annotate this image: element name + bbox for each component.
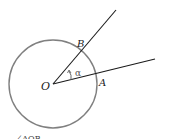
ray-ob <box>53 10 116 84</box>
label-o: O <box>41 80 50 93</box>
diagram-svg: O A B α ...∠AOB <box>0 0 169 139</box>
unit-circle-angle-diagram: O A B α ...∠AOB <box>0 0 169 139</box>
label-b: B <box>76 38 84 49</box>
label-a: A <box>98 77 106 88</box>
caption-partial: ...∠AOB <box>8 134 41 139</box>
label-alpha: α <box>75 68 81 78</box>
